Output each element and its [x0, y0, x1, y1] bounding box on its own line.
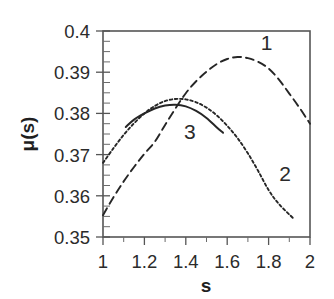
- curve-label-1: 1: [261, 31, 273, 54]
- plot-frame: [103, 31, 310, 237]
- x-tick-label-0: 1: [98, 251, 108, 272]
- chart-figure: 0.4 0.39 0.38 0.37 0.36 0.35 1 1.2 1.4 1…: [0, 0, 334, 299]
- y-tick-label-2: 0.38: [54, 103, 90, 124]
- y-tick-label-3: 0.37: [54, 145, 90, 166]
- curve-series-2: [103, 99, 293, 219]
- x-axis-ticks: [103, 237, 310, 245]
- x-tick-label-4: 1.8: [256, 251, 282, 272]
- x-axis-title: s: [201, 275, 212, 296]
- curve-label-2: 2: [279, 162, 291, 185]
- y-tick-label-4: 0.36: [54, 186, 90, 207]
- x-tick-label-1: 1.2: [132, 251, 158, 272]
- x-tick-label-5: 2: [305, 251, 315, 272]
- chart-svg: 0.4 0.39 0.38 0.37 0.36 0.35 1 1.2 1.4 1…: [0, 0, 334, 299]
- y-tick-label-0: 0.4: [64, 21, 90, 42]
- curve-label-3: 3: [184, 120, 196, 143]
- curve-series-1: [103, 57, 310, 215]
- x-tick-label-2: 1.4: [173, 251, 199, 272]
- x-tick-label-3: 1.6: [214, 251, 240, 272]
- y-tick-label-5: 0.35: [54, 227, 90, 248]
- y-tick-label-1: 0.39: [54, 62, 90, 83]
- y-axis-title: μ(s): [17, 117, 38, 152]
- y-axis-ticks: [96, 31, 110, 237]
